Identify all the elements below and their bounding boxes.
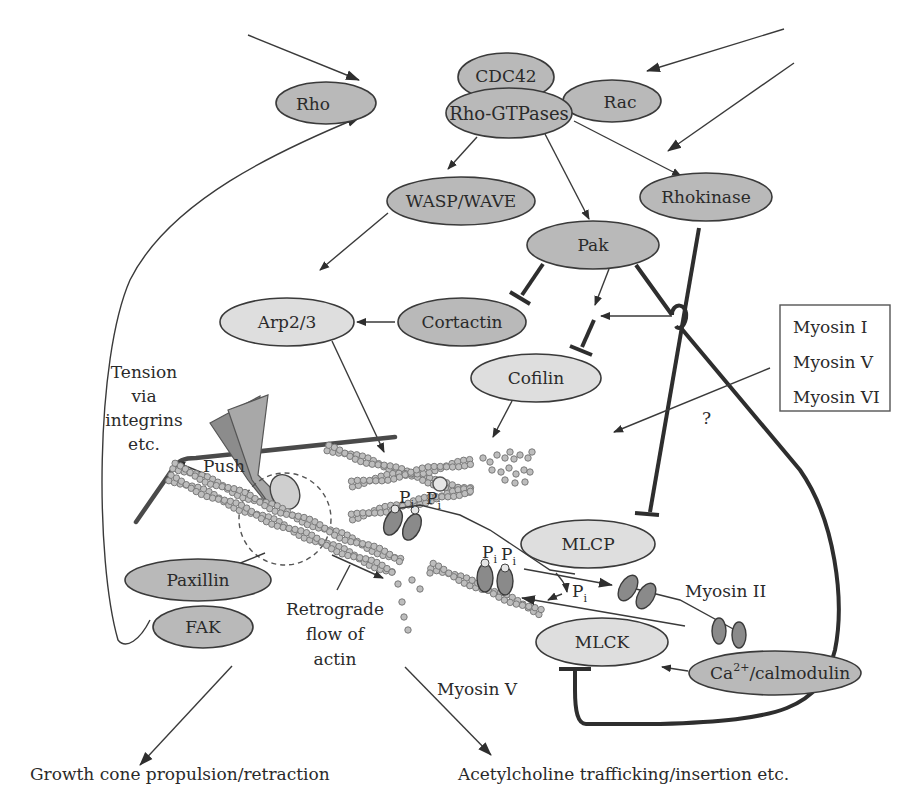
node-rhokinase[interactable]: Rhokinase — [640, 173, 772, 221]
arp23-label: Arp2/3 — [257, 312, 317, 332]
svg-text:Retrograde: Retrograde — [286, 599, 384, 619]
mlck-label: MLCK — [575, 632, 630, 652]
node-mlck[interactable]: MLCK — [536, 618, 668, 666]
node-arp23[interactable]: Arp2/3 — [220, 298, 354, 346]
node-calmodulin[interactable]: Ca2+/calmodulin — [689, 651, 861, 695]
myosin-ii-label: Myosin II — [685, 581, 766, 601]
node-cortactin[interactable]: Cortactin — [398, 298, 526, 346]
edge-pak-inhibits-cortactin — [510, 264, 543, 304]
fak-label: FAK — [185, 617, 221, 637]
node-paxillin[interactable]: Paxillin — [125, 559, 271, 601]
push-label: Push — [203, 456, 245, 476]
svg-text:via: via — [130, 386, 156, 406]
node-rac[interactable]: Rac — [563, 80, 661, 122]
rac-label: Rac — [604, 92, 637, 112]
cofilin-label: Cofilin — [508, 368, 564, 388]
edge-rhokinase-inhibits-mlcp — [635, 228, 699, 515]
outcome-acetylcholine: Acetylcholine trafficking/insertion etc. — [457, 764, 789, 784]
question-mark: ? — [702, 408, 711, 428]
node-rho[interactable]: Rho — [276, 82, 376, 124]
myosin-v-label: Myosin V — [437, 679, 518, 699]
edge-myosin-box-to-actin — [614, 368, 770, 432]
node-rho-gtpases[interactable]: Rho-GTPases — [446, 88, 572, 138]
edge-arp-to-actin — [332, 341, 384, 452]
outcome-growth-cone: Growth cone propulsion/retraction — [30, 764, 330, 784]
node-cofilin[interactable]: Cofilin — [471, 354, 601, 402]
rho-gtpases-label: Rho-GTPases — [449, 103, 569, 124]
myosin-box-item: Myosin V — [793, 352, 874, 372]
svg-text:flow of: flow of — [306, 624, 366, 644]
rhokinase-label: Rhokinase — [661, 187, 751, 207]
node-mlcp[interactable]: MLCP — [521, 520, 655, 568]
signaling-pathway-diagram: CDC42 Rac Rho Rho-GTPases WASP/WAVE Rhok… — [0, 0, 924, 804]
edge-pak-to-cofilin — [570, 269, 609, 355]
edge-wasp-to-arp — [320, 213, 388, 270]
wasp-wave-label: WASP/WAVE — [406, 191, 516, 211]
node-wasp-wave[interactable]: WASP/WAVE — [387, 177, 535, 225]
svg-text:Tension: Tension — [111, 362, 177, 382]
svg-text:etc.: etc. — [128, 434, 160, 454]
myosin-box-item: Myosin I — [793, 317, 867, 337]
calmodulin-label: Ca2+/calmodulin — [710, 661, 850, 683]
cdc42-label: CDC42 — [475, 66, 536, 86]
edge-cofilin-to-severed-actin — [493, 401, 512, 437]
mlcp-label: MLCP — [561, 534, 614, 554]
cortactin-label: Cortactin — [421, 312, 502, 332]
pak-label: Pak — [577, 235, 609, 255]
edge-to-growth-cone — [140, 666, 232, 765]
edge-calmodulin-to-mlck — [662, 667, 688, 671]
rho-label: Rho — [296, 94, 330, 114]
myosin-unconventional-box[interactable]: Myosin I Myosin V Myosin VI — [780, 305, 890, 411]
svg-text:Pi: Pi — [572, 581, 587, 605]
svg-text:integrins: integrins — [105, 410, 182, 430]
myosin-box-item: Myosin VI — [793, 387, 880, 407]
tension-label: Tension via integrins etc. — [105, 362, 182, 454]
node-pak[interactable]: Pak — [527, 221, 659, 269]
node-fak[interactable]: FAK — [153, 606, 253, 648]
svg-text:actin: actin — [314, 649, 357, 669]
retrograde-flow-label: Retrograde flow of actin — [286, 599, 384, 669]
retrograde-pointer — [337, 565, 350, 590]
paxillin-label: Paxillin — [166, 570, 229, 590]
